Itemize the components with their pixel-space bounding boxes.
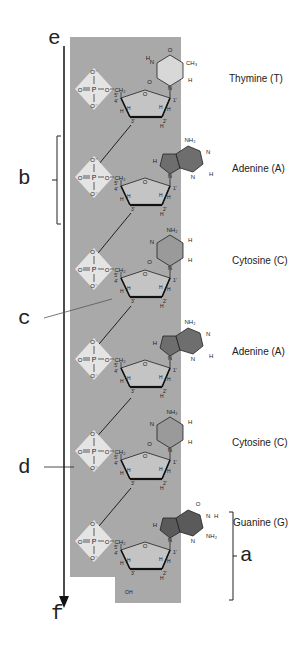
nucleotide-cytosine-2: NH₂ O H H	[75, 409, 192, 491]
label-a: a	[240, 545, 253, 566]
dna-strand: O⁻ O P O O⁻ CH₂ O 5' 4' 1' 3' 2' H H	[0, 0, 301, 659]
nucleotide-adenine-2: NH₂ H	[75, 319, 213, 399]
label-e: e	[48, 28, 61, 49]
svg-text:H: H	[188, 237, 192, 243]
svg-text:O: O	[147, 79, 152, 85]
svg-text:OH: OH	[125, 589, 133, 595]
label-b: b	[18, 168, 31, 189]
svg-text:H: H	[188, 439, 192, 445]
svg-text:H: H	[188, 419, 192, 425]
svg-text:O: O	[147, 259, 152, 265]
label-c: c	[18, 308, 31, 329]
base-label-cytosine-1: Cytosine (C)	[232, 255, 288, 266]
base-label-cytosine-2: Cytosine (C)	[232, 437, 288, 448]
base-label-guanine: Guanine (G)	[233, 517, 288, 528]
nucleotide-cytosine-1: NH₂ O H H	[75, 227, 192, 309]
svg-text:NH₂: NH₂	[167, 409, 179, 415]
base-label-adenine-1: Adenine (A)	[232, 163, 285, 174]
svg-text:H: H	[209, 353, 213, 359]
svg-text:NH₂: NH₂	[185, 137, 197, 143]
svg-text:H: H	[188, 77, 192, 83]
svg-text:H: H	[188, 257, 192, 263]
base-label-thymine: Thymine (T)	[229, 73, 283, 84]
svg-text:H: H	[214, 513, 218, 519]
label-f: f	[51, 603, 64, 624]
svg-text:O: O	[196, 501, 201, 507]
svg-text:CH₃: CH₃	[186, 60, 198, 66]
svg-text:NH₂: NH₂	[185, 319, 197, 325]
base-label-adenine-2: Adenine (A)	[232, 346, 285, 357]
svg-text:O: O	[147, 441, 152, 447]
svg-text:NH₂: NH₂	[167, 227, 179, 233]
label-d: d	[18, 457, 31, 478]
nucleotide-adenine-1: NH₂ H	[75, 137, 213, 217]
nucleotide-guanine: O H NH₂ OH	[75, 501, 218, 595]
svg-text:H: H	[209, 171, 213, 177]
nucleotide-thymine: CH₃ O H O H	[75, 47, 198, 129]
svg-text:O: O	[168, 47, 173, 53]
svg-text:NH₂: NH₂	[206, 533, 218, 539]
svg-text:H: H	[146, 55, 150, 61]
